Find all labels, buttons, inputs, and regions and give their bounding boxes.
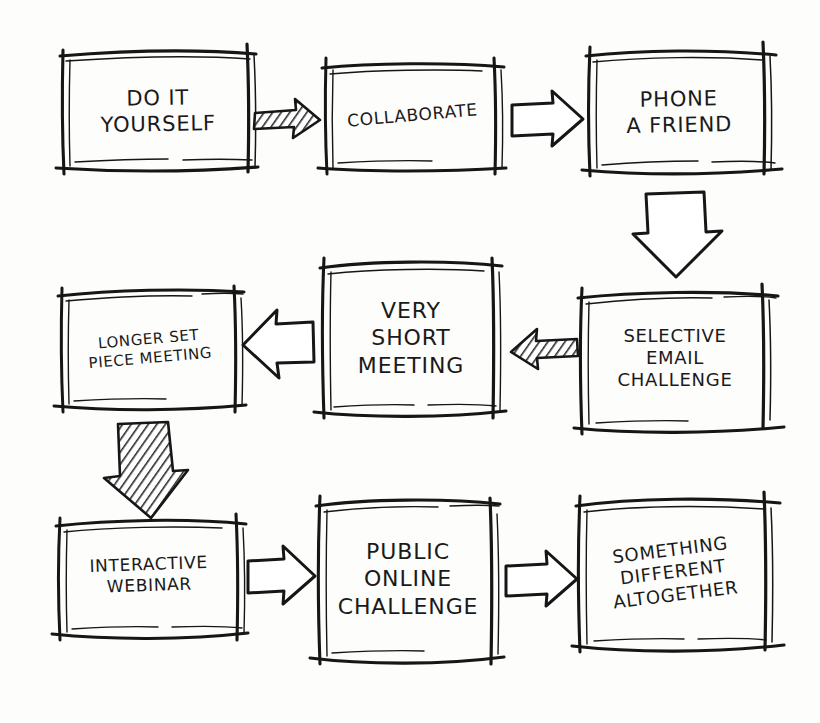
- flowchart-canvas: DO IT YOURSELF COLLABORATE PHONE A FRIEN…: [0, 0, 820, 723]
- node-box-collaborate[interactable]: [318, 58, 506, 174]
- node-box-interactive-webinar[interactable]: [52, 514, 248, 640]
- arrow-webinar-to-public-challenge: [248, 546, 315, 604]
- node-box-public-online-challenge[interactable]: [310, 496, 504, 664]
- sketch-layer: [0, 0, 820, 723]
- arrow-email-to-short-meeting: [511, 329, 578, 369]
- node-box-longer-set-piece-meeting[interactable]: [54, 286, 246, 412]
- arrow-longer-meeting-to-webinar: [104, 422, 188, 518]
- node-box-something-different-altogether[interactable]: [572, 492, 784, 652]
- arrow-phone-to-email: [633, 192, 722, 277]
- arrow-public-challenge-to-something-different: [506, 551, 577, 606]
- node-box-selective-email-challenge[interactable]: [574, 284, 784, 434]
- arrow-collaborate-to-phone: [512, 91, 583, 146]
- arrow-short-to-longer-meeting: [243, 310, 314, 378]
- arrow-diy-to-collaborate: [254, 99, 320, 138]
- node-box-very-short-meeting[interactable]: [314, 258, 506, 418]
- node-box-phone-a-friend[interactable]: [582, 42, 782, 176]
- node-box-do-it-yourself[interactable]: [56, 44, 258, 174]
